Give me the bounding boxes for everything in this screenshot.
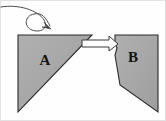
figure-canvas: A B [0,0,166,121]
shape-b-label: B [128,49,138,65]
shape-a-polygon[interactable] [18,35,92,112]
figure-svg: A B [0,0,166,121]
shape-a-label: A [40,52,51,68]
shape-b-polygon[interactable] [115,35,158,112]
